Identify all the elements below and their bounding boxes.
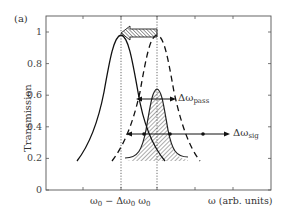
ytick-label-0: 0 [22,185,42,195]
delta-omega-pass-label: Δωpass [178,93,209,105]
delta-omega-sig-label: Δωsig [233,128,259,140]
xtick-omega: ω [90,195,98,206]
ytick-label-0.8: 0.8 [22,59,42,69]
sig-label-base: Δω [233,127,248,138]
xtick-minus-delta: − Δω [102,195,131,206]
x-axis-label: ω (arb. units) [208,196,272,206]
xtick-omega0: ω [135,195,146,206]
shift-arrow-icon [121,26,157,40]
delta-omega-sig-arrow [126,132,230,137]
xtick-label-omega0-minus-delta: ω0 − Δω0 ω0 [90,196,151,208]
ytick-label-1: 1 [22,27,42,37]
y-axis-label: Transmission [22,84,33,152]
ytick-label-0.2: 0.2 [22,153,42,163]
pass-label-sub: pass [193,97,209,105]
panel-label: (a) [14,14,28,24]
transmission-chart [0,0,286,219]
pass-label-base: Δω [178,92,193,103]
sig-label-sub: sig [248,132,258,140]
xtick-sub3: 0 [146,200,150,208]
